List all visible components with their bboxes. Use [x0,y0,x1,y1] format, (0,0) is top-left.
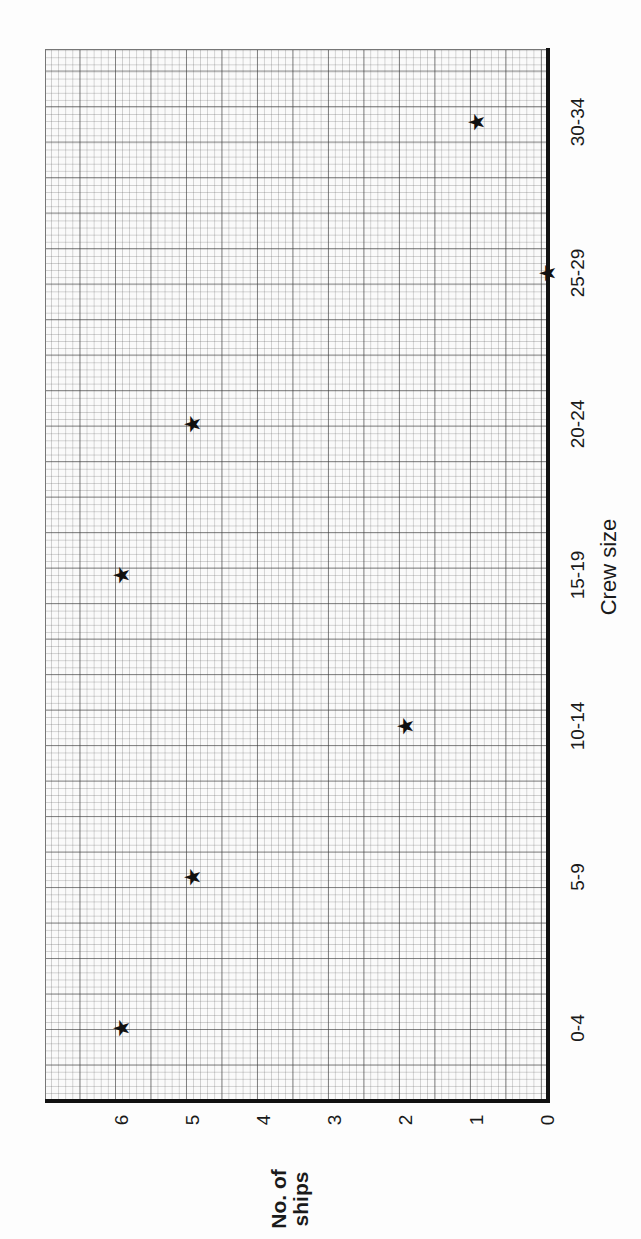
x-tick-label: 15-19 [568,535,588,615]
x-tick-label: 5-9 [568,837,588,917]
x-axis-label: Crew size [596,467,622,667]
y-tick-label: 1 [467,1105,487,1135]
x-tick-label: 0-4 [568,988,588,1068]
chart-stage: 0123456 0-45-910-1415-1920-2425-2930-34 … [0,0,641,1239]
star-marker-icon: ★ [183,867,203,887]
star-marker-icon: ★ [112,1018,132,1038]
star-marker-icon: ★ [538,263,558,283]
star-marker-icon: ★ [396,716,416,736]
star-marker-icon: ★ [467,112,487,132]
y-axis-line [45,1099,550,1103]
y-tick-label: 4 [254,1105,274,1135]
y-tick-label: 3 [325,1105,345,1135]
y-tick-label: 0 [538,1105,558,1135]
x-tick-label: 25-29 [568,233,588,313]
star-marker-icon: ★ [183,414,203,434]
y-tick-label: 6 [112,1105,132,1135]
x-axis-line [546,48,550,1103]
y-axis-label-line1: No. of [268,1159,290,1239]
y-axis-label-line2: ships [290,1159,312,1239]
y-tick-label: 2 [396,1105,416,1135]
star-marker-icon: ★ [112,565,132,585]
y-tick-label: 5 [183,1105,203,1135]
x-tick-label: 30-34 [568,82,588,162]
x-tick-label: 20-24 [568,384,588,464]
x-tick-label: 10-14 [568,686,588,766]
y-axis-label: No. of ships [268,1159,312,1239]
